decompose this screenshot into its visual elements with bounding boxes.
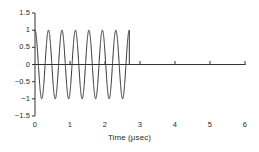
x-tick-label: 0 [33,121,37,129]
plot-area [0,0,259,152]
y-tick-label: 0 [0,61,30,69]
y-tick-label: −1.5 [0,112,30,120]
x-tick-label: 6 [243,121,247,129]
y-tick-label: −1 [0,95,30,103]
x-tick-label: 5 [208,121,212,129]
x-axis-title: Time (μsec) [0,133,259,142]
y-tick-label: 1.5 [0,9,30,17]
y-tick-label: 1 [0,26,30,34]
y-axis [32,13,35,116]
y-tick-label: 0.5 [0,43,30,51]
x-tick-label: 4 [173,121,177,129]
y-tick-label: −0.5 [0,78,30,86]
chart-container: 1.510.50−0.5−1−1.5 0123456 Time (μsec) [0,0,259,152]
x-tick-label: 1 [68,121,72,129]
x-tick-label: 2 [103,121,107,129]
x-tick-label: 3 [138,121,142,129]
